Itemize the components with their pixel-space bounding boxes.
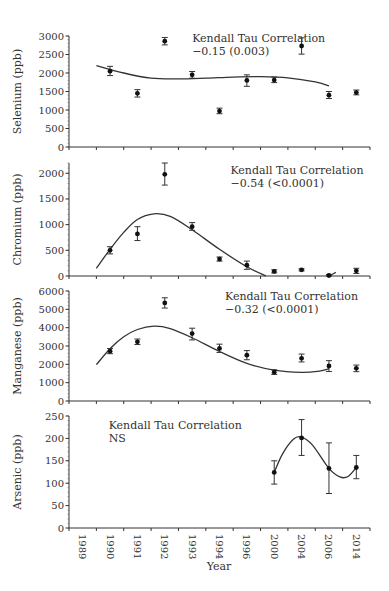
y-tick-label: 1500 xyxy=(39,193,64,204)
y-tick-label: 1500 xyxy=(39,86,64,97)
chromium-panel: 0500100015002000Chromium (ppb)Kendall Ta… xyxy=(11,163,370,282)
point-marker xyxy=(217,346,222,351)
y-tick-label: 500 xyxy=(45,245,64,256)
annotation-value: NS xyxy=(109,432,126,445)
x-tick-label: 1991 xyxy=(132,534,143,559)
y-tick-label: 1000 xyxy=(39,377,64,388)
point-marker xyxy=(354,465,359,470)
point-marker xyxy=(190,331,195,336)
y-tick-label: 3000 xyxy=(39,341,64,352)
trend-curve xyxy=(96,214,266,276)
x-tick-label: 1994 xyxy=(214,534,225,559)
data-point xyxy=(189,72,195,79)
data-point xyxy=(217,257,223,262)
data-point xyxy=(162,37,168,44)
y-tick-label: 0 xyxy=(58,396,64,407)
data-point xyxy=(271,77,277,83)
y-tick-label: 2000 xyxy=(39,359,64,370)
annotation-title: Kendall Tau Correlation xyxy=(109,419,242,432)
y-tick-label: 150 xyxy=(45,455,64,466)
point-marker xyxy=(272,269,277,274)
point-marker xyxy=(327,93,332,98)
point-marker xyxy=(299,356,304,361)
data-point xyxy=(107,349,113,354)
y-axis-title: Arsenic (ppb) xyxy=(11,434,24,510)
arsenic-panel: 050100150200250Arsenic (ppb)Kendall Tau … xyxy=(11,411,370,534)
data-point xyxy=(134,339,140,345)
data-point xyxy=(353,268,359,273)
data-point xyxy=(107,66,113,75)
y-tick-label: 5000 xyxy=(39,304,64,315)
y-tick-label: 50 xyxy=(51,500,64,511)
data-point xyxy=(353,365,359,372)
point-marker xyxy=(354,366,359,371)
y-tick-label: 4000 xyxy=(39,322,64,333)
point-marker xyxy=(299,436,304,441)
y-axis-title: Selenium (ppb) xyxy=(11,49,24,134)
chart-figure: 050010001500200025003000Selenium (ppb)Ke… xyxy=(0,0,389,591)
annotation-value: −0.54 (<0.0001) xyxy=(230,177,323,190)
x-tick-label: 1992 xyxy=(159,534,170,559)
y-tick-label: 2500 xyxy=(39,49,64,60)
y-tick-label: 250 xyxy=(45,411,64,422)
point-marker xyxy=(135,339,140,344)
y-tick-label: 3000 xyxy=(39,31,64,42)
annotation-value: −0.15 (0.003) xyxy=(192,45,269,58)
point-marker xyxy=(272,78,277,83)
point-marker xyxy=(135,231,140,236)
data-point xyxy=(271,461,277,484)
data-point xyxy=(353,455,359,478)
data-point xyxy=(134,90,140,97)
data-point xyxy=(326,92,332,99)
point-marker xyxy=(108,69,113,74)
x-tick-label: 2004 xyxy=(296,534,307,559)
y-tick-label: 200 xyxy=(45,433,64,444)
x-tick-label: 2000 xyxy=(269,534,280,559)
y-axis-title: Chromium (ppb) xyxy=(11,173,24,265)
point-marker xyxy=(327,364,332,369)
data-point xyxy=(271,269,277,274)
y-tick-label: 0 xyxy=(58,271,64,282)
data-point xyxy=(353,90,359,95)
data-point xyxy=(134,227,140,241)
x-tick-label: 1989 xyxy=(77,534,88,559)
annotation-title: Kendall Tau Correlation xyxy=(230,164,363,177)
x-tick-label: 2006 xyxy=(323,534,334,559)
y-tick-label: 1000 xyxy=(39,219,64,230)
trend-curve xyxy=(96,66,329,86)
y-tick-label: 100 xyxy=(45,478,64,489)
y-tick-label: 0 xyxy=(58,142,64,153)
point-marker xyxy=(217,257,222,262)
trend-curve xyxy=(96,326,329,372)
point-marker xyxy=(299,267,304,272)
data-point xyxy=(244,351,250,360)
trend-curve xyxy=(274,437,356,478)
point-marker xyxy=(272,370,277,375)
point-marker xyxy=(327,273,332,278)
data-point xyxy=(299,267,305,272)
point-marker xyxy=(135,91,140,96)
manganese-panel: 0100020003000400050006000Manganese (ppb)… xyxy=(11,286,370,407)
point-marker xyxy=(244,78,249,83)
y-tick-label: 2000 xyxy=(39,68,64,79)
point-marker xyxy=(162,301,167,306)
point-marker xyxy=(244,263,249,268)
y-tick-label: 500 xyxy=(45,123,64,134)
point-marker xyxy=(272,470,277,475)
data-point xyxy=(217,108,223,114)
point-marker xyxy=(354,268,359,273)
point-marker xyxy=(162,39,167,44)
x-tick-label: 2014 xyxy=(351,534,362,559)
point-marker xyxy=(354,90,359,95)
y-axis-title: Manganese (ppb) xyxy=(11,297,24,394)
point-marker xyxy=(190,224,195,229)
x-tick-label: 1996 xyxy=(241,534,252,559)
x-axis-tick-labels: 1989199019911992199319941996200020042006… xyxy=(77,534,362,559)
point-marker xyxy=(190,72,195,77)
y-tick-label: 6000 xyxy=(39,286,64,297)
data-point xyxy=(326,273,332,278)
data-point xyxy=(326,443,332,494)
y-tick-label: 0 xyxy=(58,523,64,534)
point-marker xyxy=(108,349,113,354)
data-point xyxy=(299,420,305,456)
